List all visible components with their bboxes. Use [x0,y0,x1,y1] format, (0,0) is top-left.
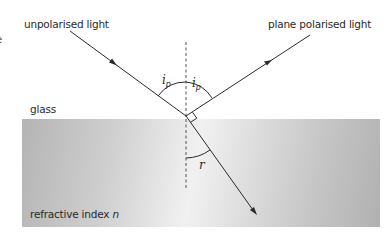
ray-diagram-svg: ip ip r [0,0,390,234]
incident-arrow-icon [109,59,117,66]
refraction-angle-label: r [199,158,206,172]
incident-ray [70,31,186,116]
reflection-angle-label: ip [192,76,201,92]
diagram-canvas: e unpolarised light plane polarised ligh… [0,0,390,234]
refracted-arrow-icon [250,207,257,215]
reflected-ray [186,35,310,116]
refraction-angle-arc [186,150,210,158]
incidence-angle-label: ip [162,73,171,89]
right-angle-marker [191,112,197,122]
refracted-ray [186,116,253,210]
